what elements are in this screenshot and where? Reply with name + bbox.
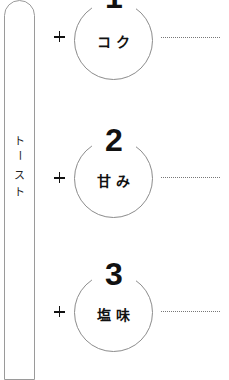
plus-icon	[54, 306, 65, 317]
item-3-dotted-leader	[161, 311, 220, 312]
plus-icon	[54, 31, 65, 42]
item-3-label: 塩味	[76, 304, 155, 324]
plus-icon	[54, 172, 65, 183]
item-1-dotted-leader	[161, 37, 220, 38]
item-2-number: 2	[92, 124, 136, 156]
toast-char-3: ス	[14, 167, 25, 184]
toast-char-1: ト	[14, 133, 25, 150]
toast-vertical-label: ト ー ス ト	[4, 133, 35, 201]
item-1-number: 1	[92, 0, 136, 13]
toast-char-4: ト	[14, 184, 25, 201]
toast-char-2: ー	[11, 150, 28, 167]
item-1-label: コク	[76, 31, 155, 51]
item-3-number: 3	[92, 258, 136, 290]
item-2-label: 甘み	[76, 170, 155, 190]
item-2-dotted-leader	[161, 177, 220, 178]
